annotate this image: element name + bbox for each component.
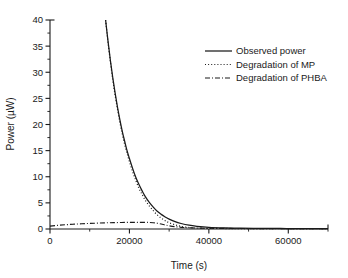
x-axis-label: Time (s) [171,260,207,271]
x-tick-label: 20000 [116,235,142,246]
y-tick-label: 10 [32,171,43,182]
x-tick-label: 0 [47,235,52,246]
y-tick-label: 20 [32,119,43,130]
y-tick-label: 15 [32,145,43,156]
y-tick-label: 25 [32,93,43,104]
y-tick-label: 30 [32,67,43,78]
legend-label-1: Observed power [236,45,306,56]
x-tick-label: 40000 [196,235,222,246]
chart-figure: 0510152025303540 0200004000060000 Time (… [0,0,348,278]
y-axis-label: Power (µW) [5,98,16,151]
y-tick-label: 5 [38,197,43,208]
x-tick-label: 60000 [275,235,301,246]
y-tick-label: 35 [32,41,43,52]
legend-label-2: Degradation of MP [236,59,315,70]
power-vs-time-line-chart: 0510152025303540 0200004000060000 Time (… [0,0,348,278]
y-tick-label: 0 [38,223,43,234]
legend-label-3: Degradation of PHBA [236,72,327,83]
y-tick-label: 40 [32,14,43,25]
